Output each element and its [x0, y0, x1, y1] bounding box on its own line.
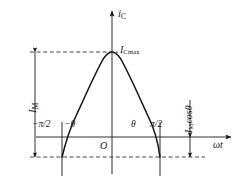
- current-waveform-figure: iC ICmax IM IMcosθ −π/2 −θ θ π/2 O ωt: [0, 0, 247, 181]
- x-axis-label: ωt: [213, 140, 223, 150]
- im-amplitude-label: IM: [27, 103, 39, 113]
- peak-value-label: ICmax: [120, 45, 140, 56]
- x-tick-neg-theta: −θ: [64, 120, 75, 130]
- x-tick-neg-pi-over-2: −π/2: [32, 120, 51, 130]
- plot-canvas: [0, 0, 247, 181]
- imcos-offset-label: IMcosθ: [184, 105, 195, 133]
- x-tick-pi-over-2: π/2: [150, 120, 162, 130]
- y-axis-label: iC: [118, 8, 126, 20]
- x-tick-theta: θ: [131, 120, 136, 130]
- origin-label: O: [100, 141, 107, 151]
- current-waveform-curve: [62, 52, 160, 157]
